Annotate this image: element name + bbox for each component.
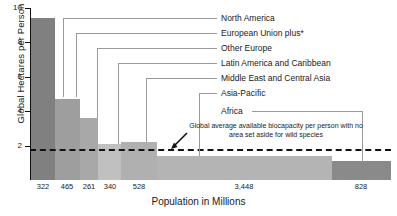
y-tick-label-8: 8 (18, 38, 22, 46)
leader-line-latin-america (118, 63, 217, 64)
y-tick-10: 10 (25, 8, 31, 9)
leader-connector-north-america (63, 18, 64, 97)
bar-european-union[interactable] (55, 99, 80, 180)
x-tick-label-asia-pacific: 3,448 (235, 182, 254, 191)
x-tick-label-european-union: 465 (61, 182, 74, 191)
chart-canvas: Global Hectares per Person Population in… (0, 0, 397, 216)
biocapacity-annotation: Global average available biocapacity per… (171, 121, 381, 140)
x-tick-label-other-europe: 261 (83, 182, 96, 191)
y-tick-label-6: 6 (18, 73, 22, 81)
biocapacity-annotation-line2: area set aside for wild species (229, 131, 323, 138)
bar-north-america[interactable] (31, 18, 55, 180)
legend-label-latin-america: Latin America and Caribbean (221, 59, 331, 68)
annotation-arrow-icon (168, 131, 190, 151)
y-tick-label-2: 2 (18, 142, 22, 150)
bar-africa[interactable] (332, 161, 391, 180)
leader-line-north-america (63, 18, 217, 19)
bar-middle-east[interactable] (121, 142, 157, 180)
x-tick-label-africa: 828 (355, 182, 368, 191)
y-tick-label-10: 10 (13, 4, 22, 12)
leader-connector-middle-east (146, 78, 147, 142)
x-axis-title: Population in Millions (0, 196, 397, 207)
leader-connector-other-europe (97, 48, 98, 118)
leader-connector-european-union (76, 33, 77, 97)
y-tick-label-4: 4 (18, 107, 22, 115)
x-tick-label-north-america: 322 (37, 182, 50, 191)
leader-line-asia-pacific (199, 93, 217, 94)
legend-label-european-union: European Union plus* (221, 29, 304, 38)
legend-label-middle-east: Middle East and Central Asia (221, 74, 330, 83)
leader-line-middle-east (146, 78, 217, 79)
x-tick-label-latin-america: 340 (104, 182, 117, 191)
biocapacity-annotation-line1: Global average available biocapacity per… (189, 122, 363, 129)
legend-label-other-europe: Other Europe (221, 44, 272, 53)
biocapacity-reference-line (30, 149, 391, 151)
legend-label-north-america: North America (221, 14, 275, 23)
leader-line-africa (252, 111, 362, 112)
x-tick-label-middle-east: 528 (133, 182, 146, 191)
leader-connector-latin-america (118, 63, 119, 144)
bar-asia-pacific[interactable] (157, 156, 332, 180)
legend-label-asia-pacific: Asia-Pacific (221, 89, 265, 98)
legend-label-africa: Africa (221, 107, 243, 116)
leader-line-european-union (76, 33, 217, 34)
leader-line-other-europe (97, 48, 217, 49)
